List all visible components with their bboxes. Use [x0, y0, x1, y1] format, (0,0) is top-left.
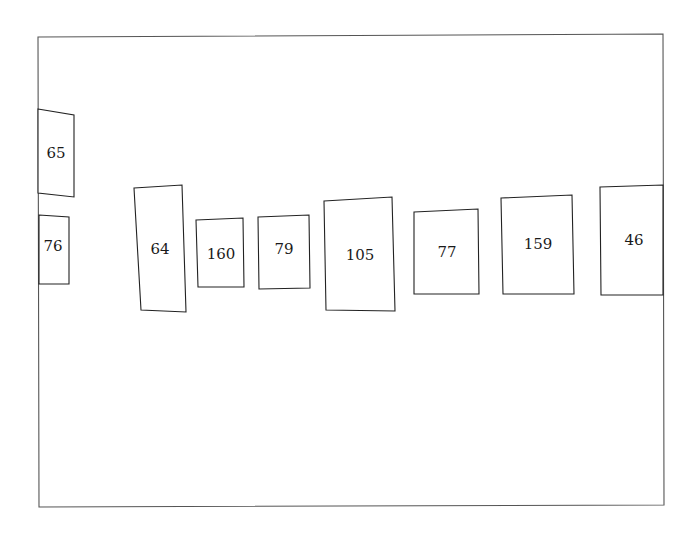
box-label: 77 [437, 243, 456, 261]
box-8: 46 [600, 185, 663, 295]
box-label: 105 [346, 246, 375, 264]
box-label: 160 [207, 245, 236, 263]
box-5: 105 [324, 197, 395, 311]
box-4: 79 [258, 215, 310, 289]
box-3: 160 [196, 218, 244, 287]
box-7: 159 [501, 195, 574, 294]
box-2: 64 [134, 185, 186, 312]
box-label: 46 [624, 231, 643, 249]
box-1: 76 [39, 215, 69, 284]
box-0: 65 [38, 109, 74, 197]
box-label: 79 [274, 240, 293, 258]
box-label: 65 [46, 144, 65, 162]
diagram-canvas: 65 76 64 160 79 105 77 159 46 [0, 0, 697, 537]
box-label: 76 [43, 237, 62, 255]
box-6: 77 [414, 209, 479, 294]
box-label: 64 [150, 240, 169, 258]
box-label: 159 [524, 235, 553, 253]
